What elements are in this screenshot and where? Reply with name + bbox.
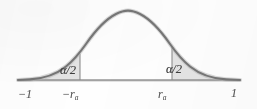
x-axis-tick-label-one: 1 (231, 87, 237, 99)
x-axis-tick-label-negative-critical-value: −ra (62, 88, 79, 102)
right-tail-shaded-region (172, 0, 240, 80)
x-axis-tick-label-positive-critical-value: ra (158, 88, 166, 102)
distribution-plot (0, 0, 257, 109)
right-tail-alpha-label: α/2 (166, 63, 182, 76)
negative-critical-value-subscript: a (75, 93, 79, 102)
x-axis-tick-label-minus-one: −1 (18, 88, 32, 100)
left-tail-alpha-label: α/2 (60, 64, 76, 77)
positive-critical-value-subscript: a (163, 93, 167, 102)
horizontal-axis (18, 80, 240, 81)
negative-critical-value-main: −r (62, 87, 75, 101)
bell-curve-path (18, 11, 240, 80)
bell-curve-figure: α/2 α/2 −1 −ra ra 1 (0, 0, 257, 109)
